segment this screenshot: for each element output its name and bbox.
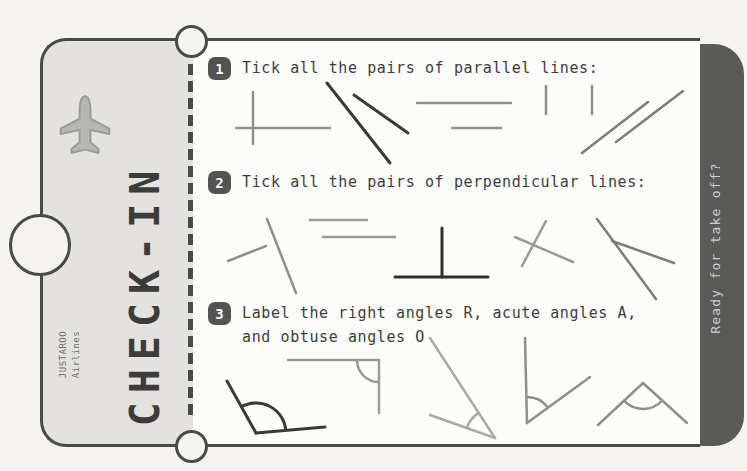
notch-top [175,25,208,58]
question-2-text: Tick all the pairs of perpendicular line… [242,171,647,194]
checkin-title: CHECK-IN [122,141,168,447]
notch-left [9,214,71,276]
notch-bottom [175,430,208,463]
question-2-badge: 2 [208,171,231,194]
airline-name: JUSTAROO [57,309,70,401]
question-3-text-line2: and obtuse angles O [242,326,425,349]
perforation-line [188,64,193,420]
question-1-badge: 1 [208,57,231,80]
ticket-main-panel [193,38,700,447]
airline-sub: Airlines [70,309,83,401]
question-3-badge: 3 [208,302,231,325]
question-3-text-line1: Label the right angles R, acute angles A… [242,302,637,325]
stub-label: Ready for take off? [705,118,727,378]
question-1-text: Tick all the pairs of parallel lines: [242,57,598,80]
airline-brand: JUSTAROO Airlines [57,309,84,401]
airplane-icon [58,93,112,159]
